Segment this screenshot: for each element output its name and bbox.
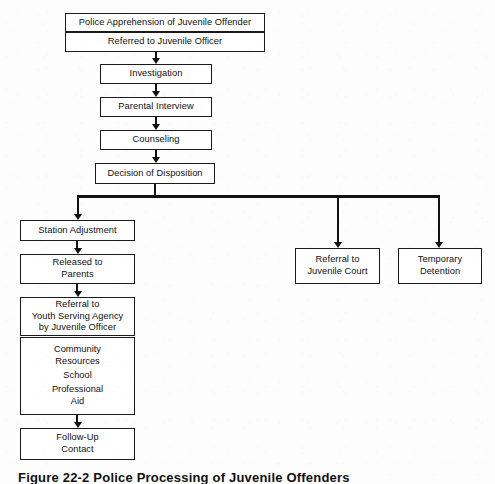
node-temporary-detention: Temporary Detention <box>398 248 482 284</box>
node-referral-youth-serving-agency: Referral to Youth Serving Agency by Juve… <box>20 297 135 336</box>
node-parental-interview-label: Parental Interview <box>118 101 193 113</box>
node-investigation: Investigation <box>100 64 212 84</box>
node-referred-to-juvenile-officer-label: Referred to Juvenile Officer <box>108 36 222 48</box>
service-school: School <box>21 370 134 382</box>
node-parental-interview: Parental Interview <box>100 97 212 117</box>
node-decision-of-disposition-label: Decision of Disposition <box>107 168 202 180</box>
node-followup-contact-label: Follow-Up Contact <box>56 432 98 455</box>
node-police-apprehension-label: Police Apprehension of Juvenile Offender <box>79 17 251 29</box>
node-referred-to-juvenile-officer: Referred to Juvenile Officer <box>65 32 265 52</box>
service-community-resources: Community Resources <box>21 344 134 367</box>
node-referral-juvenile-court-label: Referral to Juvenile Court <box>307 254 367 277</box>
node-station-adjustment: Station Adjustment <box>20 220 135 241</box>
flowchart-canvas: Police Apprehension of Juvenile Offender… <box>0 0 495 484</box>
node-counseling: Counseling <box>100 130 212 150</box>
node-police-apprehension: Police Apprehension of Juvenile Offender <box>65 13 265 32</box>
figure-caption: Figure 22-2 Police Processing of Juvenil… <box>18 470 478 484</box>
node-released-to-parents-label: Released to Parents <box>52 257 102 280</box>
node-decision-of-disposition: Decision of Disposition <box>95 163 215 184</box>
branch-bus-horizontal <box>77 195 440 198</box>
panel-youth-services: Community Resources School Professional … <box>20 337 135 415</box>
node-investigation-label: Investigation <box>130 68 183 80</box>
node-station-adjustment-label: Station Adjustment <box>38 225 116 237</box>
node-counseling-label: Counseling <box>132 134 179 146</box>
branch-drop-temporary-detention <box>438 195 440 244</box>
branch-drop-juvenile-court <box>337 195 339 244</box>
node-released-to-parents: Released to Parents <box>20 254 135 284</box>
node-referral-juvenile-court: Referral to Juvenile Court <box>295 248 380 284</box>
branch-drop-station-adjustment <box>77 195 79 216</box>
service-professional-aid: Professional Aid <box>21 384 134 407</box>
node-followup-contact: Follow-Up Contact <box>20 428 135 460</box>
node-temporary-detention-label: Temporary Detention <box>418 254 462 277</box>
node-referral-youth-serving-agency-label: Referral to Youth Serving Agency by Juve… <box>32 299 124 334</box>
